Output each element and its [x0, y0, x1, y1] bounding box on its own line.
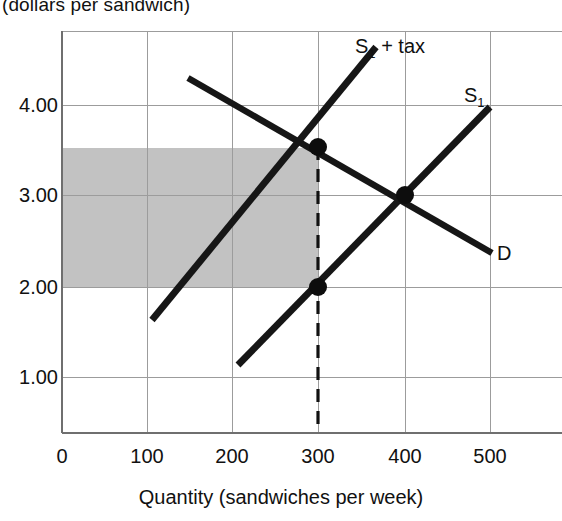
x-tick-200: 200 [197, 446, 267, 466]
marker-equilibrium-with-tax [309, 138, 327, 156]
marker-equilibrium-no-tax [396, 186, 414, 204]
curve-label-s1-plus-tax-suffix: + tax [376, 35, 425, 57]
x-tick-100: 100 [112, 446, 182, 466]
curve-label-s1-plus-tax-letter: S [355, 35, 368, 57]
y-tick-1: 1.00 [0, 367, 58, 387]
chart-canvas [0, 0, 562, 521]
y-tick-4: 4.00 [0, 95, 58, 115]
curve-label-s1-letter: S [464, 84, 477, 106]
x-axis-title: Quantity (sandwiches per week) [0, 486, 562, 509]
curve-label-s1-plus-tax: S1 + tax [355, 36, 425, 56]
curve-label-s1: S1 [464, 85, 485, 105]
marker-price-received-by-seller [309, 278, 327, 296]
x-tick-300: 300 [283, 446, 353, 466]
y-tick-2: 2.00 [0, 277, 58, 297]
y-tick-3: 3.00 [0, 185, 58, 205]
curve-label-s1-plus-tax-subscript: 1 [368, 46, 375, 61]
x-tick-400: 400 [370, 446, 440, 466]
x-tick-0: 0 [27, 446, 97, 466]
x-tick-500: 500 [455, 446, 525, 466]
supply-demand-tax-chart: (dollars per sandwich) [0, 0, 562, 521]
curve-label-s1-subscript: 1 [477, 95, 484, 110]
curve-label-demand: D [497, 243, 511, 263]
